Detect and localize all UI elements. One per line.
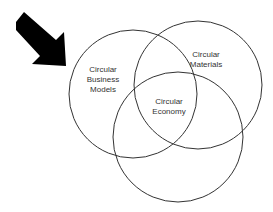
label-economy: Circular Economy <box>139 97 199 117</box>
label-line: Materials <box>176 60 236 70</box>
label-business-models: Circular Business Models <box>73 65 133 95</box>
label-materials: Circular Materials <box>176 50 236 70</box>
label-line: Circular <box>73 65 133 75</box>
label-line: Economy <box>139 107 199 117</box>
label-line: Business <box>73 75 133 85</box>
label-line: Models <box>73 85 133 95</box>
pointer-arrow-icon <box>16 12 66 66</box>
label-line: Circular <box>176 50 236 60</box>
label-line: Circular <box>139 97 199 107</box>
venn-diagram <box>0 0 273 212</box>
